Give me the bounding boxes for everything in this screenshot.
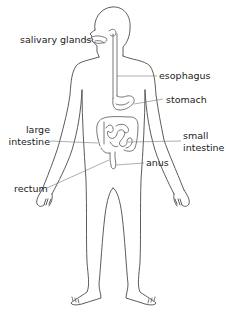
stomach (113, 96, 134, 110)
label-salivary-glands: salivary glands (20, 34, 92, 45)
right-hand (174, 190, 190, 206)
large-intestine (97, 117, 138, 154)
esophagus (113, 34, 117, 98)
leader-stomach (134, 99, 163, 104)
label-rectum: rectum (14, 183, 48, 194)
label-small-intestine-line1: small (183, 130, 208, 141)
leader-anus (116, 163, 144, 165)
body-outline-figure (0, 0, 226, 314)
leader-small-intestine (128, 141, 181, 142)
label-large-intestine-line1: large (24, 124, 50, 135)
toes (72, 297, 155, 303)
label-large-intestine-line2: intestine (8, 136, 50, 147)
label-esophagus: esophagus (159, 70, 210, 81)
head-outline (90, 7, 130, 57)
label-anus: anus (146, 157, 169, 168)
rectum (110, 152, 116, 169)
digestive-system-diagram: salivary glands esophagus stomach large … (0, 0, 226, 314)
leader-rectum (47, 160, 109, 188)
label-small-intestine-line2: intestine (183, 142, 224, 153)
small-intestine (106, 124, 132, 148)
label-stomach: stomach (166, 94, 207, 105)
legs-outline (71, 90, 156, 305)
salivary-glands (92, 29, 116, 43)
